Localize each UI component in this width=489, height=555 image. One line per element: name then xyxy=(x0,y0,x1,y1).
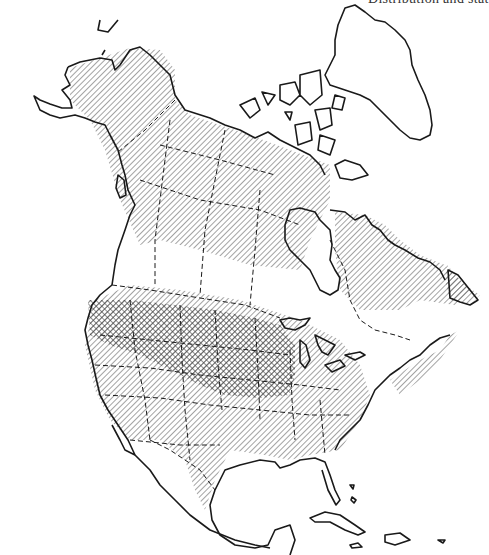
range-hatched xyxy=(70,48,480,510)
header-text: Distribution and status xyxy=(368,0,489,7)
north-america-map xyxy=(0,0,489,555)
range-map: Distribution and status xyxy=(0,0,489,555)
